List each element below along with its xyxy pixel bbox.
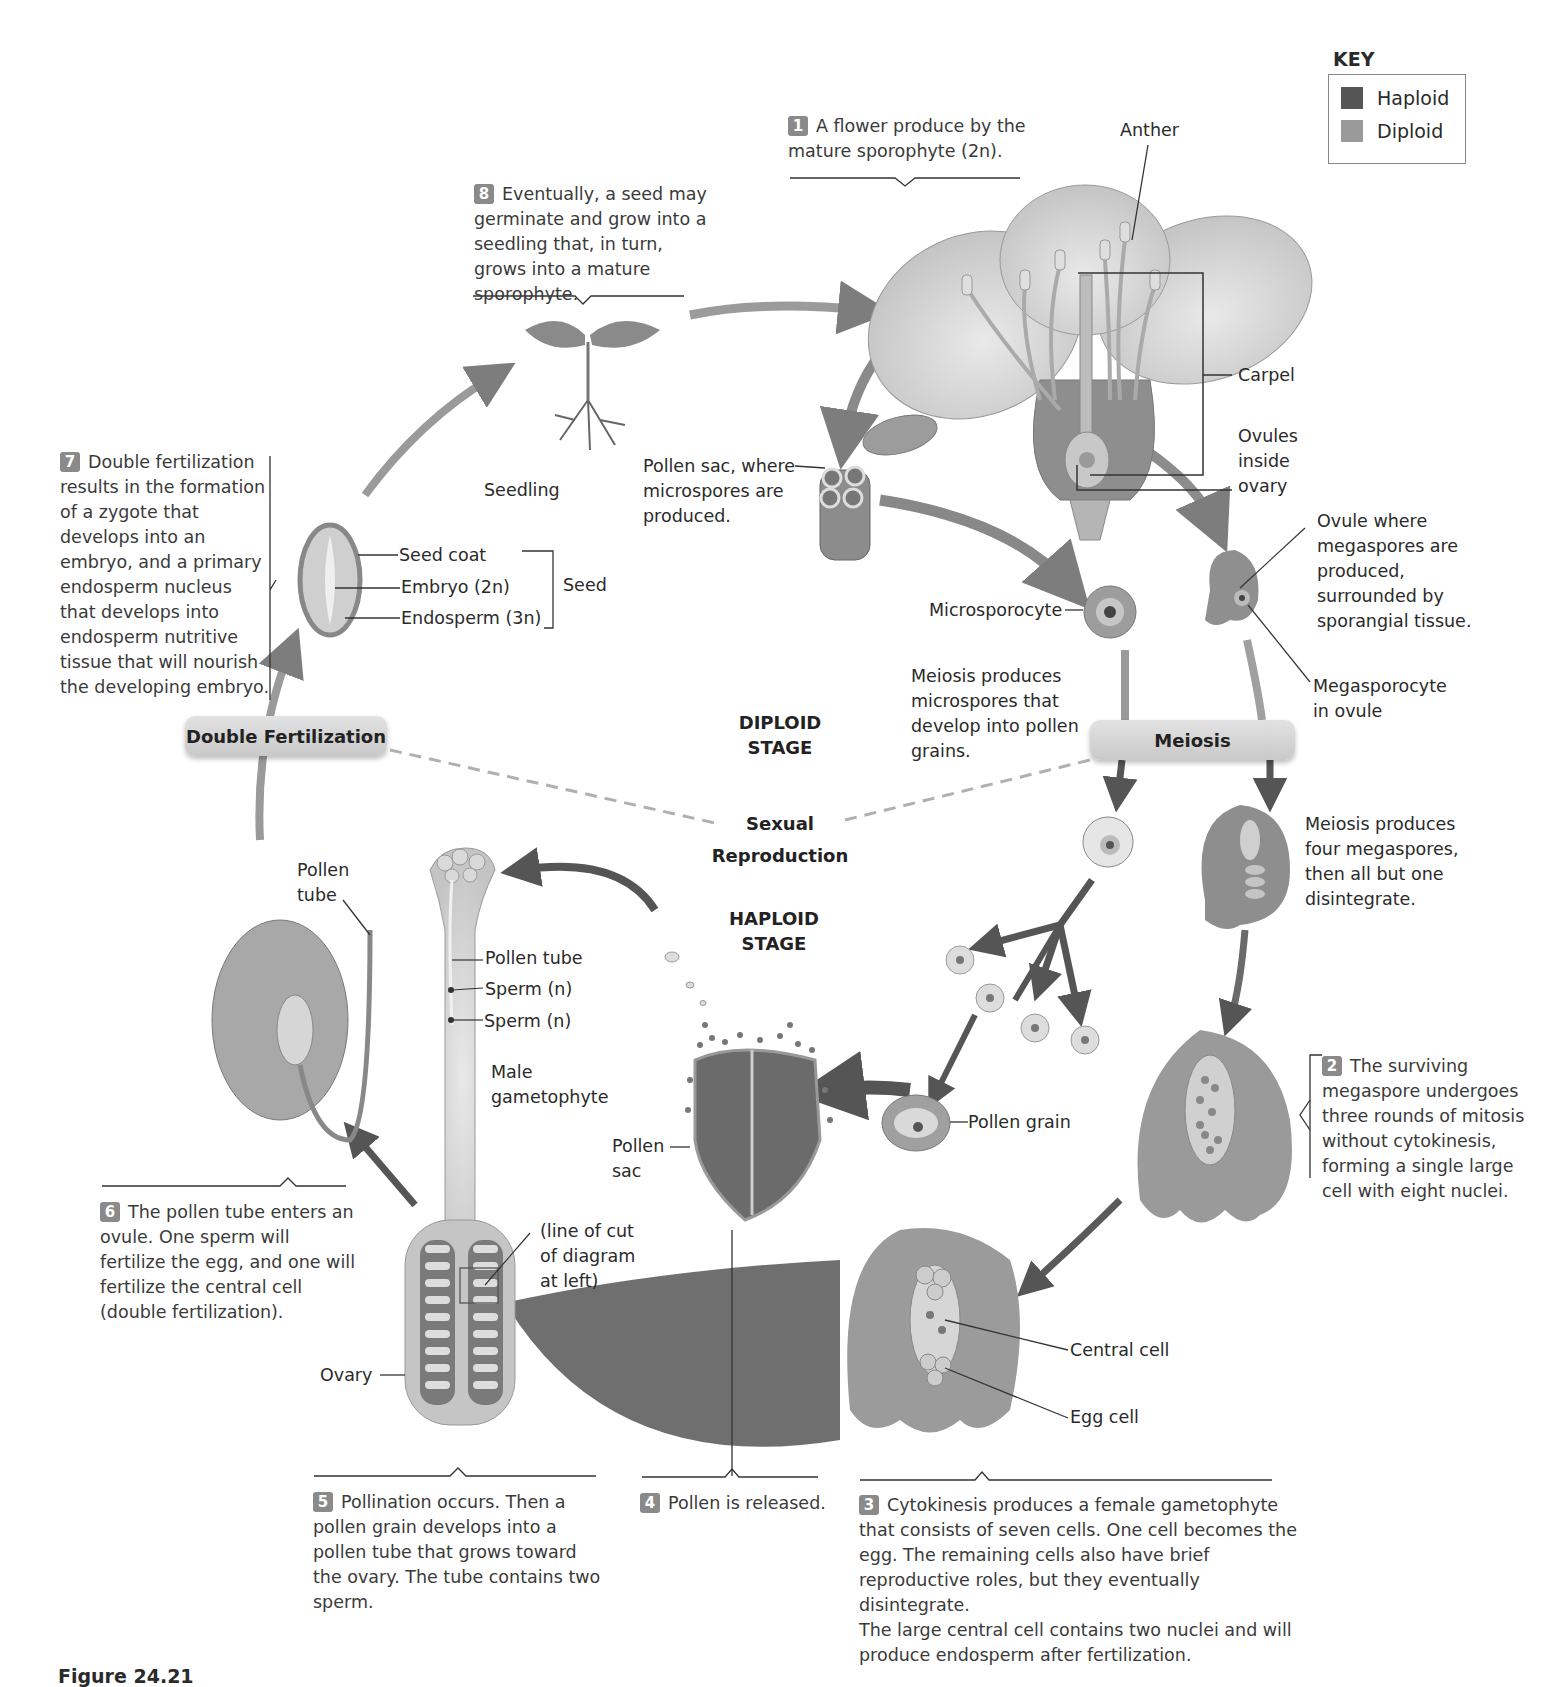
step-text-extra: The large central cell contains two nucl… [859,1620,1292,1665]
label-sperm-1: Sperm (n) [485,977,572,1002]
step-number-badge: 8 [474,184,494,204]
meiosis-pill: Meiosis [1090,720,1295,760]
step-number-badge: 1 [788,116,808,136]
label-microsporocyte: Microsporocyte [929,598,1062,623]
label-meiosis-microspores: Meiosis produces microspores that develo… [911,664,1081,764]
label-embryo: Embryo (2n) [401,575,510,600]
label-sperm-2: Sperm (n) [484,1009,571,1034]
step-number-badge: 5 [313,1492,333,1512]
label-pollen-tube-left: Pollen tube [297,858,367,908]
step-text: Eventually, a seed may germinate and gro… [474,184,707,304]
step-number-badge: 6 [100,1202,120,1222]
label-meiosis-megaspores: Meiosis produces four megaspores, then a… [1305,812,1465,912]
step-5-caption: 5Pollination occurs. Then a pollen grain… [313,1490,603,1615]
label-pollen-sac-top: Pollen sac, where microspores are produc… [643,454,803,529]
step-1-caption: 1A flower produce by the mature sporophy… [788,114,1038,164]
step-text: The surviving megaspore undergoes three … [1322,1056,1524,1201]
label-ovules-inside-ovary: Ovules inside ovary [1238,424,1308,499]
label-anther: Anther [1120,118,1179,143]
step-4-caption: 4Pollen is released. [640,1491,840,1516]
label-central-cell: Central cell [1070,1338,1169,1363]
label-pollen-tube: Pollen tube [485,946,583,971]
label-egg-cell: Egg cell [1070,1405,1139,1430]
step-text: Pollen is released. [668,1493,826,1513]
label-ovary: Ovary [320,1363,372,1388]
step-7-caption: 7Double fertilization results in the for… [60,450,270,700]
key-legend: Haploid Diploid [1328,74,1466,164]
label-seed: Seed [563,573,607,598]
step-3-caption: 3Cytokinesis produces a female gametophy… [859,1493,1304,1668]
key-item-haploid: Haploid [1329,81,1465,114]
key-item-label: Diploid [1377,120,1443,142]
key-item-label: Haploid [1377,87,1449,109]
step-2-caption: 2The surviving megaspore undergoes three… [1322,1054,1527,1204]
step-number-badge: 7 [60,452,80,472]
figure-label: Figure 24.21 [58,1665,194,1687]
step-text: Double fertilization results in the form… [60,452,269,697]
step-6-caption: 6The pollen tube enters an ovule. One sp… [100,1200,355,1325]
label-pollen-grain: Pollen grain [968,1110,1071,1135]
label-seed-coat: Seed coat [399,543,486,568]
step-text: The pollen tube enters an ovule. One spe… [100,1202,355,1322]
label-pollen-sac-bottom: Pollen sac [612,1134,672,1184]
label-line-of-cut: (line of cut of diagram at left) [540,1219,650,1294]
step-number-badge: 3 [859,1495,879,1515]
double-fertilization-pill: Double Fertilization [185,716,387,756]
step-text: Pollination occurs. Then a pollen grain … [313,1492,600,1612]
step-number-badge: 2 [1322,1056,1342,1076]
key-item-diploid: Diploid [1329,114,1465,147]
sexual-reproduction-label: Sexual Reproduction [710,808,850,872]
haploid-swatch [1341,87,1363,109]
label-endosperm: Endosperm (3n) [401,606,541,631]
label-carpel: Carpel [1238,363,1295,388]
step-text: A flower produce by the mature sporophyt… [788,116,1026,161]
label-seedling: Seedling [484,478,560,503]
step-8-caption: 8Eventually, a seed may germinate and gr… [474,182,714,307]
step-text: Cytokinesis produces a female gametophyt… [859,1495,1297,1615]
key-title: KEY [1333,48,1374,70]
step-number-badge: 4 [640,1493,660,1513]
label-ovule-where-megaspores: Ovule where megaspores are produced, sur… [1317,509,1477,634]
diploid-swatch [1341,120,1363,142]
haploid-stage-label: HAPLOID STAGE [724,906,824,956]
label-male-gametophyte: Male gametophyte [491,1060,611,1110]
label-megasporocyte: Megasporocyte in ovule [1313,674,1463,724]
diploid-stage-label: DIPLOID STAGE [730,710,830,760]
